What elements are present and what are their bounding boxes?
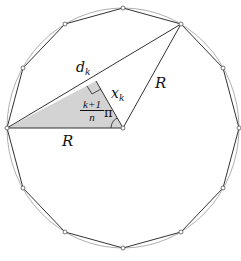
diagram-canvas — [0, 0, 241, 261]
angle-fraction: k+1 n — [80, 98, 104, 123]
radius-label-bottom: R — [62, 134, 73, 149]
chord-label-sub: k — [85, 67, 90, 77]
altitude-label-sub: k — [119, 93, 124, 103]
radius-line-right — [123, 24, 181, 128]
radius-label-right: R — [155, 76, 166, 91]
altitude-label-main: x — [111, 85, 119, 101]
altitude-label: xk — [111, 86, 124, 100]
chord-label-main: d — [76, 59, 85, 75]
angle-pi: π — [104, 106, 113, 119]
angle-denominator: n — [80, 111, 104, 123]
polygon-diagram: dk xk R R k+1 n π — [0, 0, 241, 261]
chord-label: dk — [76, 60, 90, 74]
angle-numerator: k+1 — [80, 98, 104, 111]
